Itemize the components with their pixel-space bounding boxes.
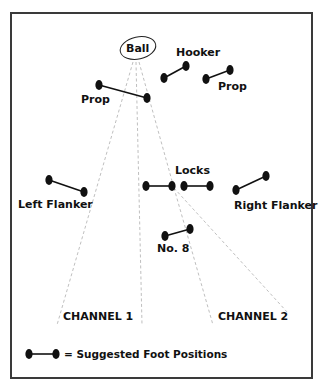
prop-right-label: Prop — [218, 80, 247, 93]
ball-label: Ball — [126, 42, 149, 55]
foot-icon — [182, 61, 189, 71]
channel-2-left-boundary — [174, 188, 213, 325]
right-flanker-feet: Right Flanker — [232, 171, 318, 212]
foot-position-icon — [52, 349, 59, 359]
foot-icon — [168, 181, 175, 191]
foot-icon — [232, 185, 239, 195]
foot-icon — [45, 175, 52, 185]
legend-label: = Suggested Foot Positions — [64, 348, 227, 360]
foot-icon — [95, 80, 102, 90]
foot-icon — [80, 187, 87, 197]
foot-icon — [262, 171, 269, 181]
number-8-label: No. 8 — [157, 242, 189, 255]
foot-icon — [160, 73, 167, 83]
foot-icon — [180, 181, 187, 191]
foot-connector — [206, 70, 230, 79]
left-flanker-label: Left Flanker — [18, 198, 93, 211]
scrum-foot-position-diagram: Ball Hooker Prop Prop Locks Left Flanker — [0, 0, 320, 387]
locks-feet: Locks — [142, 164, 213, 191]
ball-to-locks-line — [139, 62, 174, 188]
foot-icon — [202, 74, 209, 84]
prop-left-feet: Prop — [81, 80, 151, 106]
foot-connector — [236, 176, 266, 190]
left-flanker-feet: Left Flanker — [18, 175, 93, 211]
foot-icon — [143, 93, 150, 103]
foot-connector — [49, 180, 84, 192]
number-8-feet: No. 8 — [157, 224, 194, 255]
foot-icon — [186, 224, 193, 234]
channel-2-label: CHANNEL 2 — [218, 310, 288, 323]
legend: = Suggested Foot Positions — [25, 348, 227, 360]
foot-icon — [142, 181, 149, 191]
foot-icon — [226, 65, 233, 75]
right-flanker-label: Right Flanker — [234, 199, 318, 212]
hooker-label: Hooker — [176, 46, 221, 59]
prop-right-feet: Prop — [202, 65, 247, 93]
channel-1-right-boundary — [136, 62, 142, 325]
foot-position-icon — [25, 349, 32, 359]
diagram-frame — [11, 13, 312, 378]
locks-label: Locks — [175, 164, 210, 177]
ball: Ball — [118, 33, 158, 62]
prop-left-label: Prop — [81, 93, 110, 106]
foot-icon — [161, 231, 168, 241]
foot-icon — [206, 181, 213, 191]
channel-1-label: CHANNEL 1 — [63, 310, 133, 323]
